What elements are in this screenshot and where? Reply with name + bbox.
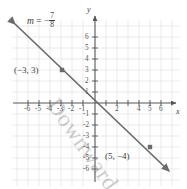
x-tick-label-neg6: -6: [24, 106, 30, 113]
graph-figure: Downward m = −78 -6 -5 -4 -3 -2 -1 2 4 5…: [0, 0, 187, 189]
point-label-minus3-3: (−3, 3): [14, 66, 39, 75]
slope-variable: m: [27, 16, 34, 26]
plotted-line: [15, 24, 169, 171]
slope-equals: =: [36, 16, 41, 26]
x-tick-label-neg4: -4: [46, 106, 52, 113]
point-label-5-minus4: (5, −4): [105, 152, 130, 161]
x-tick-label-2: 2: [115, 106, 119, 113]
x-tick-label-neg5: -5: [35, 106, 41, 113]
x-tick-label-6: 6: [159, 106, 163, 113]
y-tick-label-neg6: -6: [83, 166, 89, 173]
y-tick-label-5: 5: [85, 45, 89, 52]
slope-denominator: 8: [49, 21, 55, 29]
slope-fraction: 78: [49, 12, 55, 29]
y-tick-label-neg1: -1: [83, 111, 89, 118]
y-tick-label-neg2: -2: [83, 122, 89, 129]
x-tick-label-4: 4: [137, 106, 141, 113]
x-axis-label: x: [176, 108, 180, 116]
point-marker-5-minus4: [148, 145, 152, 149]
x-tick-label-neg2: -2: [68, 106, 74, 113]
y-tick-label-4: 4: [85, 56, 89, 63]
slope-label: m = −78: [27, 12, 55, 29]
y-tick-label-neg3: -3: [83, 133, 89, 140]
x-tick-label-5: 5: [148, 106, 152, 113]
y-axis-label: y: [87, 6, 91, 14]
y-tick-label-neg4: -4: [83, 144, 89, 151]
x-tick-label-neg3: -3: [57, 106, 63, 113]
y-tick-label-3: 3: [85, 67, 89, 74]
point-marker-minus3-3: [60, 68, 64, 72]
y-tick-label-6: 6: [85, 34, 89, 41]
y-tick-label-2: 2: [85, 78, 89, 85]
y-tick-label-1: 1: [85, 89, 89, 96]
y-tick-label-neg5: -5: [83, 155, 89, 162]
